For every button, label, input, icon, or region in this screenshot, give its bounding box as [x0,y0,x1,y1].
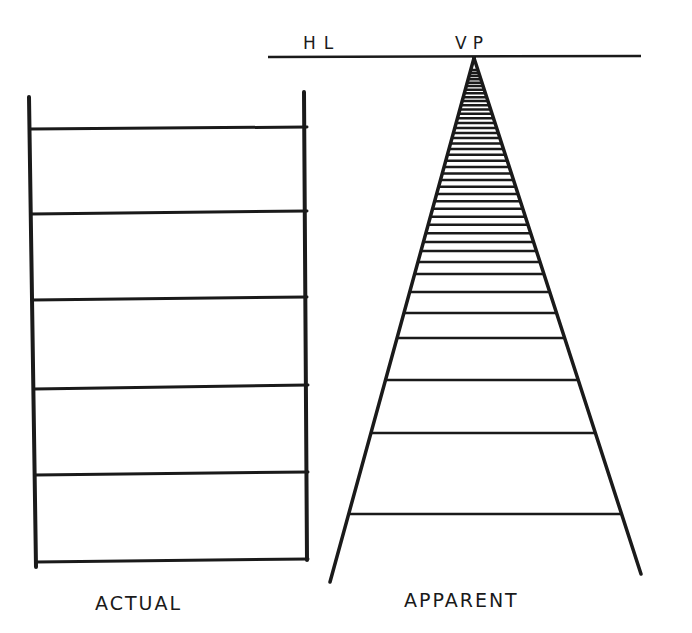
actual-rung [32,297,307,300]
perspective-diagram [0,0,692,633]
actual-ladder [29,92,308,567]
actual-rung [35,472,308,475]
apparent-ladder [330,58,641,582]
actual-rung [36,559,308,562]
vanishing-point-label: VP [455,33,489,53]
horizon-line [268,56,641,57]
apparent-rungs [350,70,621,514]
actual-rung [34,385,308,389]
horizon-line-label: HL [303,33,341,53]
actual-right-rail [304,92,307,560]
apparent-right-rail [474,58,641,574]
actual-rung [31,211,307,214]
apparent-left-rail [330,58,474,582]
vanishing-point [472,56,476,60]
apparent-caption: APPARENT [404,589,519,611]
actual-rung [30,127,307,129]
actual-left-rail [29,97,36,567]
actual-caption: ACTUAL [95,592,182,614]
